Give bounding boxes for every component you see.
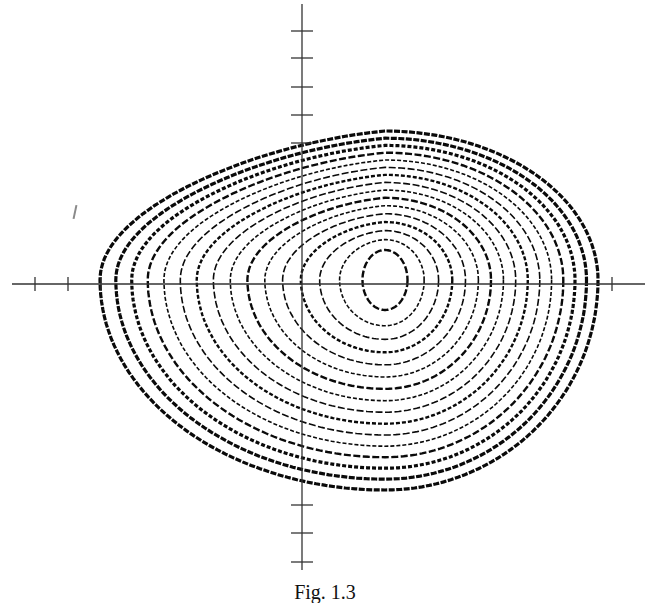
axes xyxy=(12,4,645,570)
trajectory-turn xyxy=(283,214,466,365)
trajectory-turn xyxy=(363,250,408,310)
trajectory-turn xyxy=(180,167,540,435)
trajectory-turn xyxy=(340,240,425,326)
trajectory-turn xyxy=(100,131,598,490)
spiral-trajectory xyxy=(100,131,598,490)
trajectory-turn xyxy=(320,231,439,340)
trajectory-turn xyxy=(116,138,587,479)
trajectory-turn xyxy=(247,198,491,389)
trajectory-turn xyxy=(132,145,575,468)
figure-caption: Fig. 1.3 xyxy=(0,582,650,602)
trajectory-turn xyxy=(301,222,453,352)
